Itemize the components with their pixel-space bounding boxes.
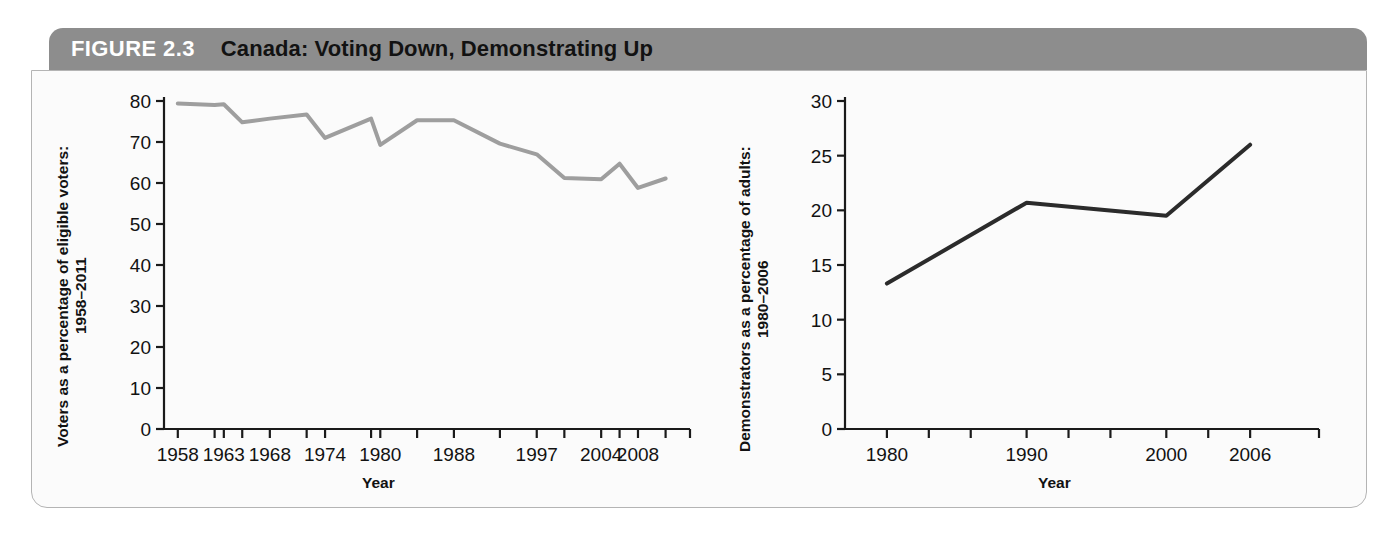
svg-text:0: 0 [821,419,832,440]
svg-text:1988: 1988 [433,444,475,465]
demonstrators-y-axis-title: Demonstrators as a percentage of adults:… [736,129,776,469]
figure-body-panel: Voters as a percentage of eligible voter… [31,70,1367,508]
svg-text:30: 30 [130,296,151,317]
svg-text:70: 70 [130,132,151,153]
svg-text:20: 20 [811,200,832,221]
svg-text:2008: 2008 [617,444,659,465]
svg-text:0: 0 [140,419,151,440]
svg-text:2006: 2006 [1229,444,1271,465]
figure-container: FIGURE 2.3 Canada: Voting Down, Demonstr… [31,28,1367,508]
voters-plot: 0102030405060708019581963196819741980198… [102,79,702,479]
svg-text:30: 30 [811,91,832,112]
svg-text:15: 15 [811,255,832,276]
svg-text:1997: 1997 [516,444,558,465]
demonstrators-plot: 0510152025301980199020002006 [783,79,1353,479]
svg-text:40: 40 [130,255,151,276]
svg-text:10: 10 [130,378,151,399]
chart-voters: Voters as a percentage of eligible voter… [32,71,708,509]
svg-text:1990: 1990 [1005,444,1047,465]
figure-header-bar: FIGURE 2.3 Canada: Voting Down, Demonstr… [49,28,1367,70]
svg-text:5: 5 [821,364,832,385]
svg-text:25: 25 [811,146,832,167]
svg-text:60: 60 [130,173,151,194]
voters-y-axis-title: Voters as a percentage of eligible voter… [54,131,94,461]
svg-text:1968: 1968 [249,444,291,465]
svg-text:1963: 1963 [203,444,245,465]
svg-text:2000: 2000 [1145,444,1187,465]
svg-text:1958: 1958 [157,444,199,465]
svg-text:1980: 1980 [359,444,401,465]
svg-text:50: 50 [130,214,151,235]
svg-text:10: 10 [811,310,832,331]
figure-title: Canada: Voting Down, Demonstrating Up [221,36,653,62]
svg-text:1980: 1980 [866,444,908,465]
svg-text:80: 80 [130,91,151,112]
svg-text:20: 20 [130,337,151,358]
svg-text:1974: 1974 [304,444,347,465]
chart-demonstrators: Demonstrators as a percentage of adults:… [708,71,1368,509]
figure-number-label: FIGURE 2.3 [71,36,195,62]
